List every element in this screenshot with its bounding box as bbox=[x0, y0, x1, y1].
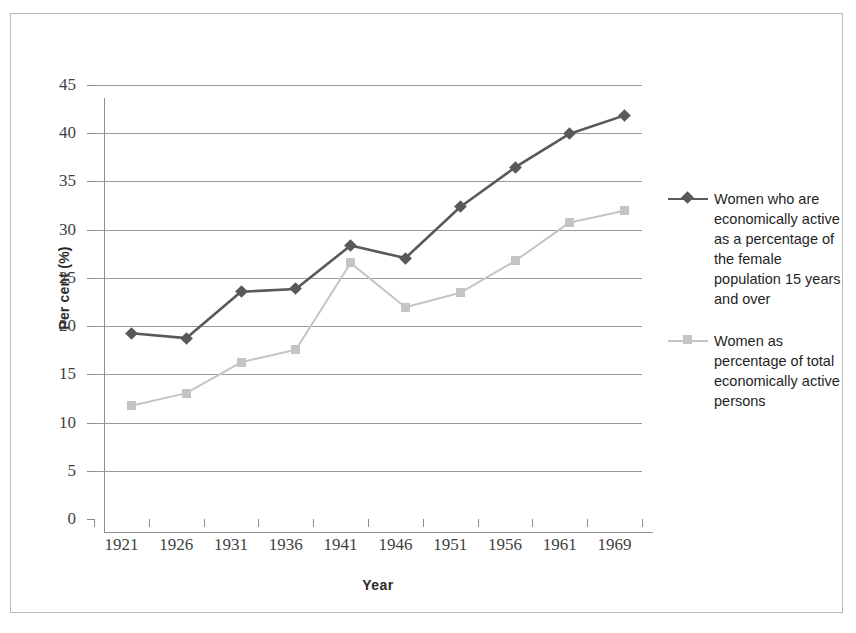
x-tick-label: 1961 bbox=[529, 536, 591, 553]
legend-entry-series-2[interactable]: Women as percentage of total economicall… bbox=[668, 331, 848, 411]
y-tick-mark bbox=[87, 181, 94, 182]
data-point-marker bbox=[565, 218, 574, 227]
data-point-marker bbox=[511, 256, 520, 265]
series-lines bbox=[104, 98, 652, 532]
square-marker-icon bbox=[683, 335, 692, 344]
x-tick-label: 1936 bbox=[255, 536, 317, 553]
y-tick-mark bbox=[87, 471, 94, 472]
x-tick-label: 1921 bbox=[90, 536, 152, 553]
y-tick-label: 35 bbox=[36, 172, 76, 189]
series-line-1 bbox=[131, 115, 624, 338]
legend-key-series-2 bbox=[668, 331, 708, 350]
y-tick-mark bbox=[87, 374, 94, 375]
y-tick-mark bbox=[87, 278, 94, 279]
plot-area bbox=[104, 98, 652, 532]
x-tick-label: 1951 bbox=[419, 536, 481, 553]
data-point-marker bbox=[456, 288, 465, 297]
x-tick-label: 1926 bbox=[145, 536, 207, 553]
series-line-2 bbox=[131, 211, 624, 406]
y-tick-label: 30 bbox=[36, 221, 76, 238]
chart-legend: Women who are economically active as a p… bbox=[668, 189, 848, 433]
legend-label-series-2: Women as percentage of total economicall… bbox=[714, 331, 844, 411]
legend-entry-series-1[interactable]: Women who are economically active as a p… bbox=[668, 189, 848, 309]
y-tick-mark bbox=[87, 326, 94, 327]
x-tick-label: 1969 bbox=[584, 536, 646, 553]
chart-frame: Per cent (%) 051015202530354045 19211926… bbox=[10, 13, 843, 613]
y-tick-mark bbox=[87, 519, 94, 520]
legend-label-series-1: Women who are economically active as a p… bbox=[714, 189, 844, 309]
diamond-marker-icon bbox=[681, 191, 694, 204]
y-tick-label: 15 bbox=[36, 365, 76, 382]
y-tick-label: 10 bbox=[36, 414, 76, 431]
x-tick-label: 1956 bbox=[474, 536, 536, 553]
y-tick-label: 5 bbox=[36, 462, 76, 479]
y-tick-mark bbox=[87, 423, 94, 424]
x-tick-mark bbox=[94, 519, 95, 527]
data-point-marker bbox=[346, 258, 355, 267]
y-tick-label: 40 bbox=[36, 124, 76, 141]
legend-key-series-1 bbox=[668, 189, 708, 208]
chart-screenshot: Per cent (%) 051015202530354045 19211926… bbox=[0, 0, 856, 633]
x-axis-line bbox=[104, 532, 653, 533]
y-tick-label: 20 bbox=[36, 317, 76, 334]
y-tick-label: 45 bbox=[36, 76, 76, 93]
gridline bbox=[94, 85, 642, 86]
y-tick-mark bbox=[87, 230, 94, 231]
y-tick-label: 0 bbox=[36, 510, 76, 527]
x-tick-label: 1946 bbox=[364, 536, 426, 553]
data-point-marker bbox=[182, 389, 191, 398]
data-point-marker bbox=[127, 401, 136, 410]
data-point-marker bbox=[620, 206, 629, 215]
data-point-marker bbox=[401, 303, 410, 312]
x-axis-title: Year bbox=[104, 577, 652, 593]
data-point-marker bbox=[291, 345, 300, 354]
x-tick-label: 1931 bbox=[200, 536, 262, 553]
x-tick-label: 1941 bbox=[310, 536, 372, 553]
y-tick-mark bbox=[87, 133, 94, 134]
data-point-marker bbox=[237, 358, 246, 367]
y-tick-mark bbox=[87, 85, 94, 86]
y-tick-label: 25 bbox=[36, 269, 76, 286]
